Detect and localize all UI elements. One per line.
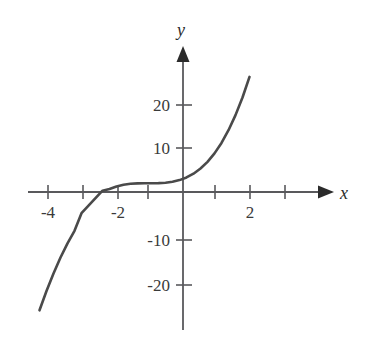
y-tick-label--20: -20 [147,276,170,295]
chart-figure: -4 -2 2 20 10 -10 -20 x y [0,0,367,345]
y-tick-label--10: -10 [147,231,170,250]
y-axis [177,46,190,330]
y-tick-label-10: 10 [153,139,170,158]
y-tick-label-20: 20 [153,96,170,115]
x-tick-label--2: -2 [111,203,125,222]
x-tick-label-2: 2 [246,203,255,222]
cubic-function-plot: -4 -2 2 20 10 -10 -20 x y [0,0,367,345]
y-axis-label: y [175,20,185,40]
x-axis-arrowhead [318,186,334,199]
y-axis-arrowhead [177,46,190,62]
x-axis-label: x [339,183,348,203]
cubic-curve [40,77,250,310]
x-axis [28,186,334,199]
x-tick-label--4: -4 [41,203,56,222]
y-axis-ticks [176,105,192,285]
